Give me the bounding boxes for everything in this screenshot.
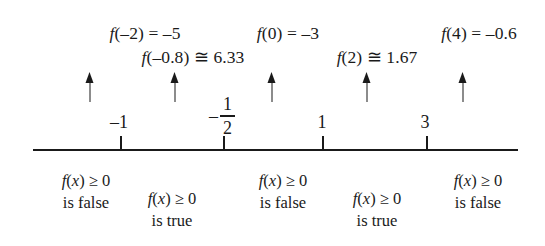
statement-line-1: f(x) ≥ 0 — [454, 170, 502, 192]
statement-line-2: is true — [148, 210, 196, 232]
up-arrow-icon-test-point-neg0point8 — [170, 72, 181, 102]
arrow-shaft — [271, 80, 272, 102]
evaluation-label-f-2: f(2) ≅ 1.67 — [337, 48, 418, 66]
arrow-shaft — [174, 80, 175, 102]
tick-label-one: 1 — [318, 113, 327, 132]
statement-line-2: is true — [353, 210, 401, 232]
tick-mark-neg-one-half — [223, 136, 225, 150]
evaluation-label-f-neg2: f(–2) = –5 — [109, 24, 180, 42]
tick-label-neg1: –1 — [110, 113, 128, 132]
fraction-denominator: 2 — [221, 118, 234, 137]
arrow-shaft — [366, 80, 367, 102]
statement-line-1: f(x) ≥ 0 — [148, 188, 196, 210]
tick-label-three: 3 — [421, 113, 430, 132]
number-line-axis — [33, 149, 518, 151]
tick-mark-neg1 — [120, 136, 122, 150]
fraction: 1 2 — [220, 95, 235, 137]
up-arrow-icon-test-point-2 — [362, 72, 373, 102]
statement-line-1: f(x) ≥ 0 — [62, 170, 110, 192]
statement-interval-2: f(x) ≥ 0 is true — [148, 188, 196, 232]
up-arrow-icon-test-point-4 — [458, 72, 469, 102]
evaluation-label-f-4: f(4) = –0.6 — [441, 24, 517, 42]
tick-mark-one — [322, 136, 324, 150]
number-line-figure: f(–2) = –5 f(–0.8) ≅ 6.33 f(0) = –3 f(2)… — [0, 0, 545, 246]
statement-line-2: is false — [62, 192, 110, 214]
fraction-bar — [220, 115, 235, 117]
tick-label-neg-one-half: – 1 2 — [209, 95, 235, 137]
fraction-minus-sign: – — [209, 106, 218, 127]
evaluation-label-f-neg0point8: f(–0.8) ≅ 6.33 — [142, 48, 245, 66]
evaluation-label-f-0: f(0) = –3 — [257, 24, 319, 42]
statement-line-2: is false — [259, 192, 307, 214]
statement-interval-3: f(x) ≥ 0 is false — [259, 170, 307, 214]
statement-interval-1: f(x) ≥ 0 is false — [62, 170, 110, 214]
fraction-numerator: 1 — [221, 95, 234, 114]
tick-mark-three — [426, 136, 428, 150]
arrow-shaft — [89, 80, 90, 102]
up-arrow-icon-test-point-0 — [267, 72, 278, 102]
statement-interval-5: f(x) ≥ 0 is false — [454, 170, 502, 214]
statement-line-1: f(x) ≥ 0 — [353, 188, 401, 210]
statement-line-1: f(x) ≥ 0 — [259, 170, 307, 192]
arrow-shaft — [462, 80, 463, 102]
statement-line-2: is false — [454, 192, 502, 214]
statement-interval-4: f(x) ≥ 0 is true — [353, 188, 401, 232]
up-arrow-icon-test-point-neg2 — [85, 72, 96, 102]
